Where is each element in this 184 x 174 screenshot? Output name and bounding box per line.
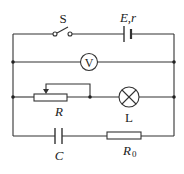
rheostat-slider-wire xyxy=(46,84,90,97)
junction-dot xyxy=(172,95,176,99)
junction-dot xyxy=(172,60,176,64)
rheostat-body xyxy=(34,94,67,101)
rheostat-slider-arrow-icon xyxy=(43,89,49,94)
resistor0-subscript: 0 xyxy=(132,149,137,159)
junction-dot xyxy=(88,95,92,99)
junction-dot xyxy=(11,95,15,99)
switch-blade xyxy=(57,27,68,33)
switch-contact-left xyxy=(53,32,57,36)
lamp-label: L xyxy=(125,110,133,125)
voltmeter-label: V xyxy=(85,56,94,70)
circuit-diagram: S E,r V R L C R 0 xyxy=(0,0,184,174)
rheostat-label: R xyxy=(54,104,63,119)
resistor0-body xyxy=(107,132,141,139)
junction-dot xyxy=(11,60,15,64)
battery-label: E,r xyxy=(119,10,137,25)
resistor0-label: R xyxy=(122,143,131,158)
switch-label: S xyxy=(59,11,66,26)
switch-contact-right xyxy=(68,32,72,36)
capacitor-label: C xyxy=(55,148,64,163)
